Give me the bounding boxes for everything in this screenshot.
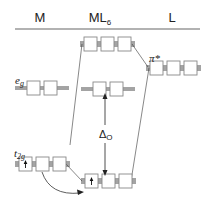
- header-complex: ML6: [89, 10, 112, 27]
- orbital-box: [184, 61, 197, 75]
- orbital-box: [44, 81, 57, 95]
- label-delta-o: ΔO: [99, 128, 113, 142]
- label-pi-star: π*: [149, 52, 161, 64]
- orbital-box: [84, 37, 97, 51]
- curved-transfer-arrow: [42, 172, 84, 195]
- line-upper-to-pistar: [132, 44, 148, 67]
- orbital-box: [93, 82, 106, 96]
- orbital-box: [102, 174, 115, 188]
- level-complex-eg: [81, 82, 135, 96]
- line-pistar-to-t2g: [131, 68, 149, 181]
- orbital-box: [53, 157, 66, 171]
- level-complex-t2g: [81, 174, 136, 188]
- correlation-lines: [66, 44, 149, 181]
- mo-diagram: M ML6 L eg t2g π* ΔO: [0, 0, 209, 210]
- orbital-box: [119, 174, 132, 188]
- orbital-box: [110, 82, 123, 96]
- orbital-box: [167, 61, 180, 75]
- line-t2g-to-t2g: [66, 164, 82, 181]
- line-eg-to-upper: [70, 44, 82, 145]
- label-t2g: t2g: [14, 147, 25, 161]
- header-metal: M: [35, 10, 46, 25]
- header-ligand: L: [168, 10, 175, 25]
- orbital-box: [27, 81, 40, 95]
- level-complex-upper: [80, 37, 135, 51]
- orbital-box: [101, 37, 114, 51]
- orbital-box: [36, 157, 49, 171]
- orbital-box: [118, 37, 131, 51]
- label-eg: eg: [15, 74, 24, 88]
